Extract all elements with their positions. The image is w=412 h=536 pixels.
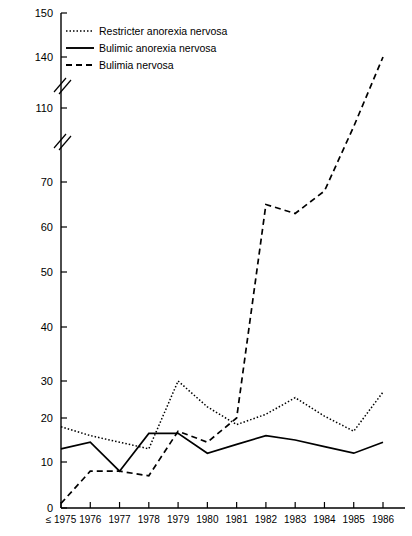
- x-tick-label: 1980: [196, 514, 219, 525]
- y-tick-label: 0: [47, 502, 53, 514]
- series-line-solid: [61, 433, 383, 471]
- y-tick-label: 10: [41, 456, 53, 468]
- legend-label: Bulimia nervosa: [99, 59, 174, 71]
- legend-label: Restricter anorexia nervosa: [99, 25, 228, 37]
- x-tick-label: 1982: [255, 514, 278, 525]
- series-line-dotted: [61, 381, 383, 449]
- x-tick-label: 1984: [313, 514, 336, 525]
- x-axis: ≤ 19751976197719781979198019811982198319…: [46, 502, 405, 525]
- legend-label: Bulimic anorexia nervosa: [99, 42, 216, 54]
- x-tick-label: 1985: [343, 514, 366, 525]
- chart-legend: Restricter anorexia nervosaBulimic anore…: [66, 25, 228, 71]
- y-tick-label: 30: [41, 375, 53, 387]
- y-tick-label: 70: [41, 176, 53, 188]
- line-chart: 150140110706050403020100 ≤ 1975197619771…: [0, 0, 412, 536]
- x-tick-label: 1977: [108, 514, 131, 525]
- y-tick-label: 60: [41, 221, 53, 233]
- axis-break-mark: [54, 78, 66, 92]
- y-tick-label: 20: [41, 412, 53, 424]
- x-tick-label: 1978: [138, 514, 161, 525]
- y-tick-label: 150: [35, 7, 53, 19]
- series-layer: [61, 57, 383, 503]
- y-tick-label: 140: [35, 51, 53, 63]
- x-tick-label: 1986: [372, 514, 395, 525]
- chart-container: 150140110706050403020100 ≤ 1975197619771…: [0, 0, 412, 536]
- y-axis: 150140110706050403020100: [35, 7, 71, 514]
- y-tick-label: 40: [41, 321, 53, 333]
- y-tick-label: 110: [35, 102, 53, 114]
- x-tick-label: 1983: [284, 514, 307, 525]
- y-tick-label: 50: [41, 266, 53, 278]
- x-tick-label: ≤ 1975: [46, 514, 77, 525]
- x-tick-label: 1981: [226, 514, 249, 525]
- axis-break-mark: [54, 134, 66, 148]
- x-tick-label: 1979: [167, 514, 190, 525]
- series-line-dashed: [61, 57, 383, 503]
- x-tick-label: 1976: [79, 514, 102, 525]
